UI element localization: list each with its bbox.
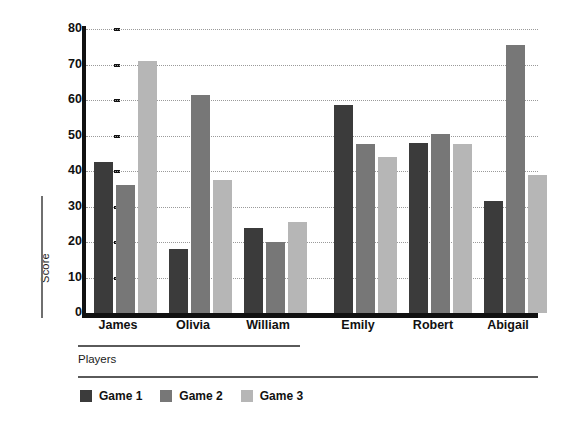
bar: [94, 162, 113, 313]
x-axis-title: Players: [78, 353, 116, 365]
bar: [506, 45, 525, 313]
legend-item: Game 1: [80, 389, 142, 403]
bar: [191, 95, 210, 313]
x-axis-category-labels: JamesOliviaWilliamEmilyRobertAbigail: [86, 318, 538, 338]
x-tick-label: Emily: [318, 318, 398, 332]
legend-item: Game 2: [160, 389, 222, 403]
bar-group: [244, 29, 307, 313]
bar: [453, 144, 472, 313]
bar: [378, 157, 397, 313]
bar-group: [409, 29, 472, 313]
y-tick-label: 70: [48, 58, 82, 71]
bar: [169, 249, 188, 313]
legend-label: Game 1: [99, 389, 142, 403]
x-tick-label: Abigail: [468, 318, 548, 332]
bar: [409, 143, 428, 313]
chart-legend: Game 1Game 2Game 3: [80, 388, 321, 404]
y-tick-label: 80: [48, 22, 82, 35]
x-tick-label: James: [78, 318, 158, 332]
y-tick-label: 60: [48, 93, 82, 106]
bar: [213, 180, 232, 313]
bar: [138, 61, 157, 313]
bar: [528, 175, 547, 313]
bar-chart: Score 01020304050607080 JamesOliviaWilli…: [0, 0, 569, 423]
bar: [431, 134, 450, 313]
bar: [356, 144, 375, 313]
y-tick-label: 0: [48, 306, 82, 319]
x-tick-label: Robert: [393, 318, 473, 332]
x-axis-title-rule-top: [78, 345, 300, 347]
bar-group: [169, 29, 232, 313]
x-tick-label: Olivia: [153, 318, 233, 332]
x-tick-label: William: [228, 318, 308, 332]
bar-group: [334, 29, 397, 313]
y-tick-label: 10: [48, 271, 82, 284]
legend-swatch: [160, 390, 172, 402]
y-tick-label: 50: [48, 129, 82, 142]
bar: [244, 228, 263, 313]
bar: [334, 105, 353, 313]
bar-group: [94, 29, 157, 313]
y-tick-label: 40: [48, 164, 82, 177]
bar: [484, 201, 503, 313]
legend-label: Game 3: [260, 389, 303, 403]
bar-group: [484, 29, 547, 313]
legend-swatch: [80, 390, 92, 402]
legend-swatch: [241, 390, 253, 402]
legend-rule: [78, 376, 538, 378]
bar: [288, 222, 307, 313]
bar: [266, 242, 285, 313]
y-tick-label: 20: [48, 235, 82, 248]
y-tick-label: 30: [48, 200, 82, 213]
plot-area: [86, 29, 538, 313]
bar: [116, 185, 135, 313]
legend-label: Game 2: [179, 389, 222, 403]
y-axis-ticks: 01020304050607080: [36, 0, 82, 423]
legend-item: Game 3: [241, 389, 303, 403]
